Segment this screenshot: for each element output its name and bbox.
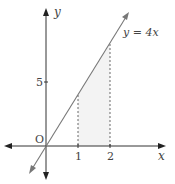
equation-label: y = 4x — [122, 26, 159, 39]
x-tick-label-2: 2 — [107, 150, 114, 163]
shaded-area — [78, 44, 110, 146]
y-axis-arrow-up-icon — [43, 8, 49, 16]
y-axis-arrow-down-icon — [43, 172, 49, 180]
graph-canvas: y x y = 4x O 5 1 2 — [0, 0, 175, 184]
y-tick-label-5: 5 — [36, 76, 43, 89]
x-axis-arrow-left-icon — [4, 143, 12, 149]
line-arrow-top-icon — [122, 12, 129, 20]
line-arrow-bottom-icon — [29, 165, 36, 174]
x-tick-label-1: 1 — [75, 150, 82, 163]
x-axis-label: x — [158, 149, 165, 163]
origin-label: O — [35, 133, 44, 146]
y-axis-label: y — [53, 5, 61, 19]
